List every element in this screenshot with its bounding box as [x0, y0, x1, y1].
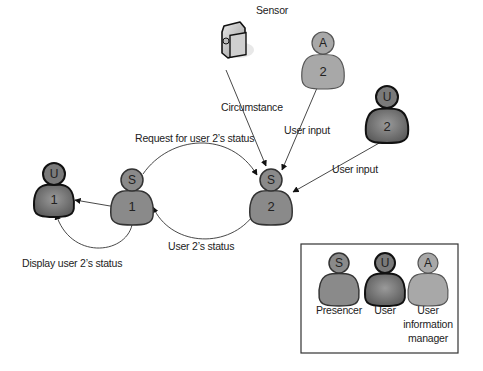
node-s1-presencer[interactable]: S 1	[111, 169, 153, 225]
label-request-status: Request for user 2’s status	[135, 132, 254, 144]
label-user2-status: User 2’s status	[168, 240, 234, 252]
node-u1-head-letter: U	[50, 167, 59, 181]
node-s2-number: 2	[267, 199, 274, 214]
presence-diagram: Circumstance User input User input Reque…	[0, 0, 483, 371]
label-u2-user-input: User input	[332, 163, 378, 175]
node-s2-presencer[interactable]: S 2	[250, 169, 292, 225]
legend-user-letter: U	[381, 256, 390, 270]
label-a2-user-input: User input	[284, 124, 330, 136]
edge-request-status	[143, 143, 257, 175]
legend-uim-letter: A	[424, 256, 432, 270]
node-s1-head-letter: S	[128, 173, 136, 187]
node-a2-number: 2	[319, 64, 326, 79]
sensor-label: Sensor	[256, 4, 289, 16]
label-circumstance: Circumstance	[221, 101, 283, 113]
node-u1-user[interactable]: U 1	[34, 163, 74, 217]
node-u1-number: 1	[50, 192, 57, 207]
legend-uim-label-line1: User	[417, 304, 439, 316]
video-camera-icon	[222, 22, 254, 58]
node-a2-user-info-manager[interactable]: A 2	[302, 32, 344, 89]
node-u2-head-letter: U	[383, 90, 392, 104]
label-display-status: Display user 2’s status	[22, 257, 122, 269]
legend: S Presencer U User A User information ma…	[301, 244, 458, 353]
edge-user2-status	[153, 207, 252, 239]
node-u2-user[interactable]: U 2	[366, 86, 408, 143]
connectors	[56, 70, 381, 248]
node-s1-number: 1	[128, 199, 135, 214]
legend-presencer-letter: S	[335, 256, 343, 270]
legend-uim-label-line3: manager	[408, 332, 449, 344]
node-s2-head-letter: S	[267, 173, 275, 187]
edge-s1-to-u1	[75, 200, 116, 207]
edge-circumstance	[226, 70, 266, 166]
sensor-node: Sensor	[222, 4, 289, 58]
legend-presencer-label: Presencer	[316, 304, 363, 316]
legend-uim-label-line2: information	[403, 318, 453, 330]
node-a2-head-letter: A	[319, 36, 327, 50]
legend-user-label: User	[374, 304, 396, 316]
node-u2-number: 2	[383, 119, 390, 134]
